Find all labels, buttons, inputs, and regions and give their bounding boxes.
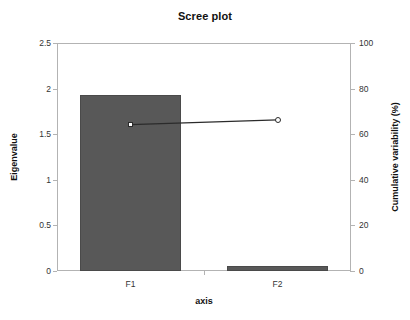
y-tick-label-right: 0 — [359, 267, 401, 276]
y-tick-label-right: 20 — [359, 221, 401, 230]
chart-title: Scree plot — [0, 10, 410, 22]
line-marker-f2 — [275, 117, 281, 123]
y-tick-label-right: 40 — [359, 176, 401, 185]
scree-plot-figure: Scree plot Eigenvalue Cumulative variabi… — [0, 0, 410, 320]
y-tick-right — [350, 271, 355, 272]
y-tick-label-right: 100 — [359, 39, 401, 48]
plot-area — [57, 43, 351, 271]
x-tick-label-f2: F2 — [248, 280, 308, 289]
y-tick-label-left: 2.5 — [9, 39, 51, 48]
y-tick-label-right: 60 — [359, 130, 401, 139]
y-axis-title-left-text: Eigenvalue — [9, 133, 19, 181]
y-tick-label-right: 80 — [359, 85, 401, 94]
y-tick-label-left: 1.5 — [9, 130, 51, 139]
y-axis-title-right: Cumulative variability (%) — [386, 43, 404, 271]
x-axis-title: axis — [57, 296, 351, 306]
cumulative-variability-line — [57, 43, 351, 271]
x-tick-label-f1: F1 — [101, 280, 161, 289]
x-tick — [204, 271, 205, 275]
y-axis-title-right-text: Cumulative variability (%) — [390, 102, 400, 212]
y-axis-title-left: Eigenvalue — [6, 43, 22, 271]
y-tick-label-left: 0 — [9, 267, 51, 276]
y-tick-label-left: 0.5 — [9, 221, 51, 230]
y-tick-label-left: 2 — [9, 85, 51, 94]
cumulative-line-path — [131, 120, 278, 125]
y-tick-label-left: 1 — [9, 176, 51, 185]
line-marker-f1 — [128, 122, 133, 127]
y-tick-left — [53, 271, 57, 272]
